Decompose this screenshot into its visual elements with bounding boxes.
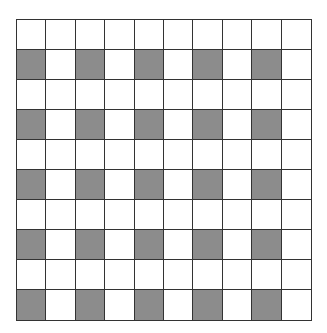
grid-cell <box>46 110 75 140</box>
grid-cell <box>282 200 311 230</box>
grid-cell <box>164 200 193 230</box>
grid-cell-shaded <box>193 230 222 260</box>
grid-cell <box>282 170 311 200</box>
grid-cell <box>164 50 193 80</box>
grid-cell <box>135 200 164 230</box>
grid-cell-shaded <box>135 110 164 140</box>
grid-cell-shaded <box>17 290 46 320</box>
grid-cell <box>193 20 222 50</box>
grid-cell-shaded <box>135 50 164 80</box>
grid-cell <box>46 200 75 230</box>
grid-cell <box>17 200 46 230</box>
grid-cell-shaded <box>193 110 222 140</box>
grid-cell <box>46 140 75 170</box>
grid-cell <box>252 200 281 230</box>
grid-cell-shaded <box>252 110 281 140</box>
grid-cell <box>105 260 134 290</box>
grid-cell <box>76 80 105 110</box>
grid-cell-shaded <box>76 290 105 320</box>
grid-cell <box>252 80 281 110</box>
grid-cell <box>46 260 75 290</box>
grid-cell <box>223 110 252 140</box>
grid-cell <box>105 140 134 170</box>
grid-cell <box>46 170 75 200</box>
grid-cell <box>135 140 164 170</box>
grid-cell-shaded <box>252 230 281 260</box>
grid-cell <box>105 170 134 200</box>
grid-cell <box>164 140 193 170</box>
grid-cell <box>282 230 311 260</box>
grid-cell <box>46 20 75 50</box>
grid-cell <box>223 260 252 290</box>
grid-cell-shaded <box>252 290 281 320</box>
grid-cell-shaded <box>17 110 46 140</box>
grid-cell <box>282 140 311 170</box>
grid-cell <box>76 140 105 170</box>
grid-cell <box>223 170 252 200</box>
grid-cell <box>223 290 252 320</box>
grid-cell <box>105 50 134 80</box>
grid-cell-shaded <box>135 170 164 200</box>
grid-cell <box>164 20 193 50</box>
grid-cell <box>76 200 105 230</box>
grid-cell <box>17 80 46 110</box>
grid-cell <box>282 20 311 50</box>
grid-cell <box>105 20 134 50</box>
grid-cell <box>223 80 252 110</box>
grid-cell <box>105 290 134 320</box>
grid-cell-shaded <box>76 170 105 200</box>
grid-cell <box>193 140 222 170</box>
grid-cell <box>193 200 222 230</box>
grid-cell <box>135 260 164 290</box>
grid-cell <box>223 20 252 50</box>
grid-cell-shaded <box>76 110 105 140</box>
grid-cell-shaded <box>193 50 222 80</box>
grid-cell-shaded <box>193 290 222 320</box>
grid-cell <box>164 230 193 260</box>
grid-cell <box>252 140 281 170</box>
grid-cell <box>105 80 134 110</box>
grid-cell-shaded <box>252 50 281 80</box>
grid-cell <box>223 50 252 80</box>
grid-cell <box>76 260 105 290</box>
grid-cell <box>46 290 75 320</box>
grid-cell-shaded <box>193 170 222 200</box>
grid-cell <box>46 230 75 260</box>
grid-cell <box>193 260 222 290</box>
grid-cell <box>164 260 193 290</box>
grid-cell <box>282 80 311 110</box>
grid-cell <box>17 140 46 170</box>
grid-cell <box>46 80 75 110</box>
grid-cell <box>105 110 134 140</box>
grid-cell <box>135 20 164 50</box>
grid-cell <box>193 80 222 110</box>
grid-cell <box>164 290 193 320</box>
grid-cell <box>164 110 193 140</box>
grid-cell <box>282 290 311 320</box>
grid-cell-shaded <box>17 50 46 80</box>
grid-cell <box>17 260 46 290</box>
grid-cell-shaded <box>135 230 164 260</box>
grid-cell <box>164 80 193 110</box>
grid-cell <box>76 20 105 50</box>
grid-cell <box>282 50 311 80</box>
grid-cell <box>223 140 252 170</box>
grid-cell <box>105 200 134 230</box>
grid-cell <box>17 20 46 50</box>
grid-cell-shaded <box>135 290 164 320</box>
grid-cell <box>135 80 164 110</box>
grid-cell <box>223 230 252 260</box>
grid-cell-shaded <box>76 230 105 260</box>
grid-cell <box>46 50 75 80</box>
grid-cell <box>223 200 252 230</box>
grid-cell <box>164 170 193 200</box>
grid-cell <box>282 110 311 140</box>
grid-cell-shaded <box>17 230 46 260</box>
grid-cell <box>105 230 134 260</box>
checker-grid <box>16 19 312 321</box>
grid-cell-shaded <box>17 170 46 200</box>
grid-cell <box>252 260 281 290</box>
grid-cell-shaded <box>76 50 105 80</box>
grid-cell <box>252 20 281 50</box>
grid-cell-shaded <box>252 170 281 200</box>
